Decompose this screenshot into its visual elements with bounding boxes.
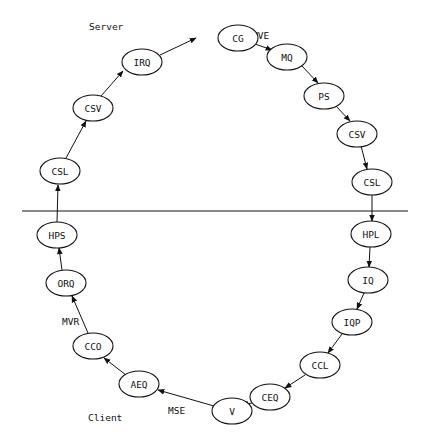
edge-ps-csv — [336, 106, 350, 121]
edge-orq-hps — [59, 248, 62, 270]
node-label: IQP — [343, 317, 360, 328]
node-label: IQ — [362, 275, 374, 286]
node-orq: ORQ — [46, 270, 86, 296]
node-mq: MQ — [267, 44, 307, 70]
edge-aeq-cco — [104, 358, 126, 375]
node-ps: PS — [304, 83, 344, 109]
edge-csv-irq — [101, 71, 123, 96]
node-label: V — [229, 406, 235, 417]
node-iqp: IQP — [332, 309, 372, 335]
node-hps: HPS — [37, 222, 77, 248]
node-aeq: AEQ — [119, 371, 159, 397]
node-ceq: CEQ — [250, 384, 290, 410]
client-server-cycle-diagram: Server Client MVE MVR MSE CGMQPSCSVCSLHP… — [0, 0, 429, 447]
node-label: CCO — [84, 341, 101, 352]
server-label: Server — [89, 21, 124, 32]
node-csl_l: CSL — [40, 158, 80, 184]
edge-iqp-ccl — [328, 334, 342, 353]
node-v: V — [212, 398, 252, 424]
node-irq: IRQ — [122, 49, 162, 75]
edge-iq-iqp — [357, 293, 364, 309]
node-label: CSV — [348, 129, 365, 140]
node-hpl: HPL — [351, 221, 391, 247]
edge-csl-csv-left — [66, 121, 86, 158]
node-cg: CG — [218, 25, 258, 51]
node-csl_r: CSL — [352, 169, 392, 195]
edge-irq-cg — [160, 38, 196, 55]
node-label: MQ — [281, 52, 293, 63]
edge-mq-ps — [302, 66, 318, 83]
node-label: CG — [232, 33, 244, 44]
edge-label-mse: MSE — [168, 405, 185, 416]
node-label: CSV — [84, 103, 101, 114]
edge-cco-orq — [72, 296, 88, 333]
node-label: HPL — [362, 229, 379, 240]
edge-ccl-ceq — [285, 375, 305, 388]
node-label: ORQ — [57, 278, 74, 289]
node-csv_l: CSV — [73, 95, 113, 121]
node-label: PS — [318, 91, 330, 102]
node-label: HPS — [48, 230, 65, 241]
edge-hpl-iq — [369, 247, 370, 267]
node-iq: IQ — [348, 267, 388, 293]
node-label: CSL — [363, 177, 380, 188]
node-label: CEQ — [261, 392, 278, 403]
node-csv_r: CSV — [337, 121, 377, 147]
client-label: Client — [88, 412, 122, 423]
node-label: CSL — [51, 166, 68, 177]
nodes: CGMQPSCSVCSLHPLIQIQPCCLCEQVAEQCCOORQHPSC… — [37, 25, 392, 424]
node-ccl: CCL — [300, 352, 340, 378]
node-cco: CCO — [73, 333, 113, 359]
edge-v-aeq — [158, 390, 214, 406]
node-label: IRQ — [133, 57, 150, 68]
edge-label-mvr: MVR — [62, 316, 79, 327]
node-label: AEQ — [130, 379, 147, 390]
node-label: CCL — [311, 360, 328, 371]
edge-hps-csl — [57, 185, 58, 222]
edge-csv-csl — [361, 146, 367, 169]
